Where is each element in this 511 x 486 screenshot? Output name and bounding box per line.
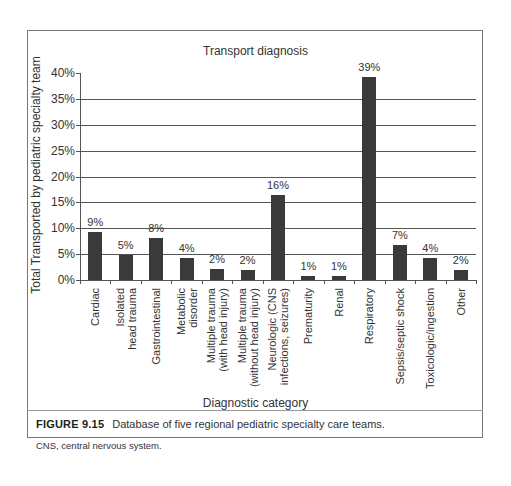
- category-label-line: Toxicologic/ingestion: [424, 288, 436, 389]
- y-tick-label: 5%: [58, 248, 75, 260]
- bar: [210, 269, 224, 280]
- gridline: [80, 151, 476, 152]
- x-tick-mark: [293, 280, 294, 284]
- category-label-line: Neurologic (CNS: [266, 288, 278, 385]
- bar: [454, 270, 468, 280]
- category-label-line: head trauma: [126, 288, 138, 350]
- bar: [362, 77, 376, 280]
- bar-value-label: 1%: [319, 260, 359, 272]
- caption-note: CNS, central nervous system.: [36, 440, 162, 451]
- figure-caption: FIGURE 9.15Database of five regional ped…: [36, 418, 385, 430]
- bar: [149, 238, 163, 280]
- bar-value-label: 7%: [380, 229, 420, 241]
- y-axis-label: Total Transported by pediatric specialty…: [29, 56, 43, 293]
- y-tick-label: 35%: [51, 93, 75, 105]
- bar-value-label: 4%: [410, 242, 450, 254]
- bar: [180, 258, 194, 280]
- bar: [241, 270, 255, 280]
- figure-label: FIGURE 9.15: [36, 418, 104, 430]
- x-tick-mark: [415, 280, 416, 284]
- y-tick-label: 40%: [51, 67, 75, 79]
- bar: [119, 255, 133, 280]
- category-label-line: disorder: [187, 288, 199, 335]
- category-label-line: Other: [455, 288, 467, 316]
- x-axis: [80, 280, 476, 281]
- bar-value-label: 16%: [258, 179, 298, 191]
- bar-value-label: 9%: [75, 216, 115, 228]
- chart-title: Transport diagnosis: [0, 44, 511, 58]
- bar: [393, 245, 407, 280]
- x-axis-label: Diagnostic category: [0, 396, 511, 410]
- category-label: Sepsis/septic shock: [394, 288, 406, 385]
- y-tick-label: 15%: [51, 196, 75, 208]
- category-label-line: (without head injury): [248, 288, 260, 387]
- category-label: Other: [455, 288, 467, 316]
- category-label-line: Isolated: [114, 288, 126, 350]
- x-tick-mark: [171, 280, 172, 284]
- category-label: Multiple trauma(without head injury): [236, 288, 260, 387]
- bar: [271, 195, 285, 280]
- category-label: Isolatedhead trauma: [114, 288, 138, 350]
- category-label-line: Multiple trauma: [205, 288, 217, 372]
- category-label-line: Prematurity: [302, 288, 314, 344]
- x-tick-mark: [354, 280, 355, 284]
- category-label: Renal: [333, 288, 345, 317]
- category-label: Metabolicdisorder: [175, 288, 199, 335]
- category-label-line: Renal: [333, 288, 345, 317]
- x-tick-mark: [324, 280, 325, 284]
- category-label-line: Multiple trauma: [236, 288, 248, 387]
- category-label-line: Gastrointestinal: [150, 288, 162, 364]
- category-label: Gastrointestinal: [150, 288, 162, 364]
- x-tick-mark: [202, 280, 203, 284]
- category-label-line: Respiratory: [363, 288, 375, 344]
- caption-divider: [27, 410, 483, 411]
- gridline: [80, 125, 476, 126]
- bar: [301, 276, 315, 280]
- category-label: Cardiac: [89, 288, 101, 326]
- bar-value-label: 2%: [228, 254, 268, 266]
- bar-value-label: 2%: [441, 254, 481, 266]
- category-label-line: (with head injury): [217, 288, 229, 372]
- category-label-line: Metabolic: [175, 288, 187, 335]
- category-label-line: Sepsis/septic shock: [394, 288, 406, 385]
- category-label-line: infections, seizures): [278, 288, 290, 385]
- x-tick-mark: [141, 280, 142, 284]
- bar: [423, 258, 437, 280]
- y-tick-label: 0%: [58, 274, 75, 286]
- category-label-line: Cardiac: [89, 288, 101, 326]
- category-label: Multiple trauma(with head injury): [205, 288, 229, 372]
- x-tick-mark: [446, 280, 447, 284]
- bar: [332, 276, 346, 280]
- category-label: Neurologic (CNSinfections, seizures): [266, 288, 290, 385]
- y-tick-label: 20%: [51, 171, 75, 183]
- y-tick-mark: [76, 73, 80, 74]
- bar: [88, 232, 102, 280]
- x-tick-mark: [110, 280, 111, 284]
- x-tick-mark: [263, 280, 264, 284]
- y-tick-label: 25%: [51, 145, 75, 157]
- x-tick-mark: [385, 280, 386, 284]
- x-tick-mark: [80, 280, 81, 284]
- category-label: Prematurity: [302, 288, 314, 344]
- x-tick-mark: [476, 280, 477, 284]
- bar-value-label: 39%: [349, 61, 389, 73]
- bar-value-label: 8%: [136, 222, 176, 234]
- x-tick-mark: [232, 280, 233, 284]
- y-tick-label: 10%: [51, 222, 75, 234]
- gridline: [80, 99, 476, 100]
- category-label: Toxicologic/ingestion: [424, 288, 436, 389]
- caption-text: Database of five regional pediatric spec…: [112, 418, 385, 430]
- bar-value-label: 5%: [106, 239, 146, 251]
- category-label: Respiratory: [363, 288, 375, 344]
- y-tick-label: 30%: [51, 119, 75, 131]
- gridline: [80, 177, 476, 178]
